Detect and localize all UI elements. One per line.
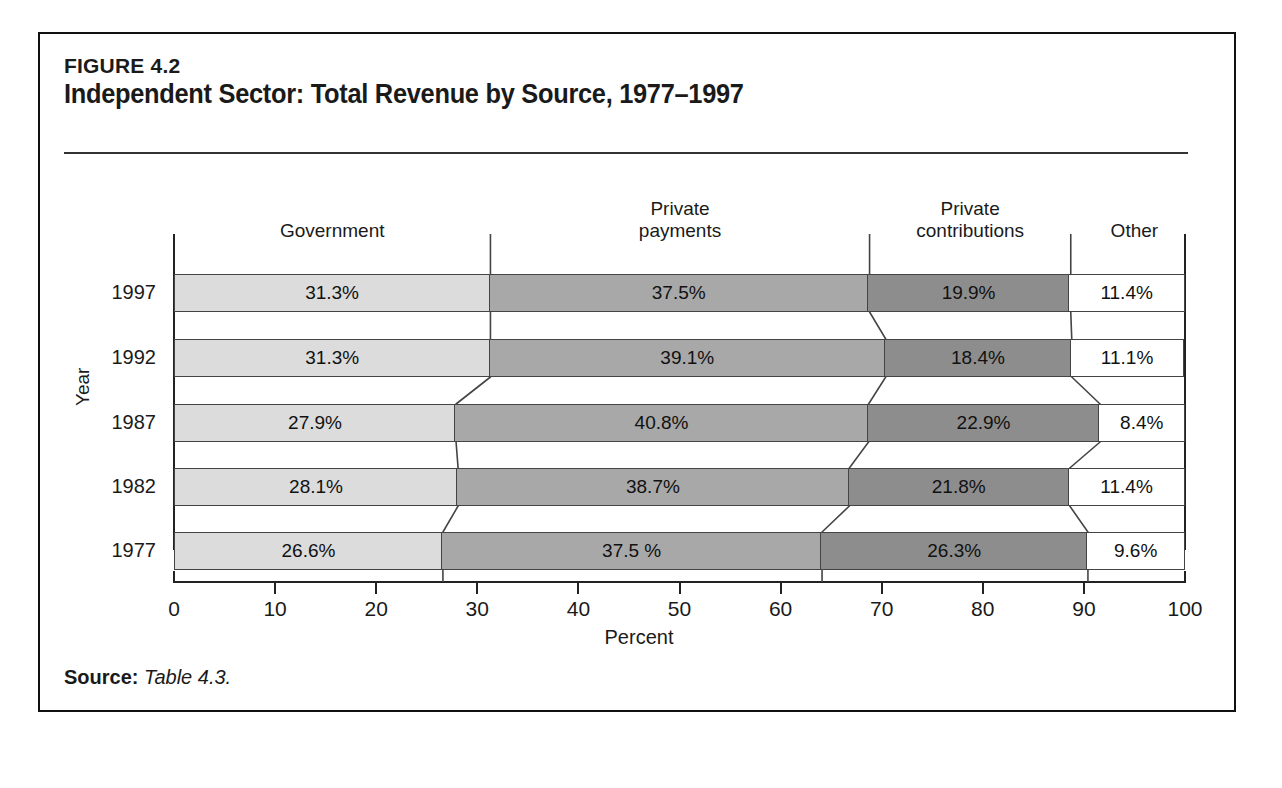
segment-value-label: 8.4% (1120, 412, 1163, 434)
figure-page-frame: FIGURE 4.2 Independent Sector: Total Rev… (38, 32, 1236, 712)
segment-value-label: 21.8% (932, 476, 986, 498)
bar-row: 31.3%37.5%19.9%11.4% (174, 274, 1185, 312)
x-axis-tick-label: 60 (751, 597, 811, 621)
bar-row: 31.3%39.1%18.4%11.1% (174, 339, 1185, 377)
plot-area: 31.3%37.5%19.9%11.4%31.3%39.1%18.4%11.1%… (174, 242, 1185, 542)
column-header-line: Other (1014, 220, 1254, 242)
segment-value-label: 11.4% (1100, 282, 1152, 304)
y-axis-label: 1992 (86, 346, 156, 369)
column-header: Government (212, 220, 452, 242)
column-header: Privatepayments (560, 198, 800, 242)
x-axis-tick-label: 80 (953, 597, 1013, 621)
bar-segment: 8.4% (1098, 404, 1185, 442)
column-header: Other (1014, 220, 1254, 242)
x-axis-tick-label: 0 (144, 597, 204, 621)
source-label: Source: (64, 666, 138, 688)
source-reference: Table 4.3. (144, 666, 231, 688)
x-axis-right-cap (1184, 571, 1186, 583)
segment-value-label: 19.9% (942, 282, 996, 304)
column-header-line: payments (560, 220, 800, 242)
segment-value-label: 11.4% (1100, 476, 1152, 498)
bar-row: 26.6%37.5 %26.3%9.6% (174, 532, 1185, 570)
x-axis-tick (577, 583, 579, 594)
x-axis-tick-label: 90 (1054, 597, 1114, 621)
stacked-bar-chart: GovernmentPrivatepaymentsPrivatecontribu… (40, 34, 1234, 710)
segment-value-label: 18.4% (951, 347, 1005, 369)
x-axis-tick-label: 100 (1155, 597, 1215, 621)
x-axis-tick (881, 583, 883, 594)
bar-segment: 21.8% (848, 468, 1070, 506)
segment-value-label: 37.5% (652, 282, 706, 304)
segment-value-label: 39.1% (660, 347, 714, 369)
y-axis-label: 1997 (86, 281, 156, 304)
x-axis-tick (982, 583, 984, 594)
bar-segment: 39.1% (489, 339, 886, 377)
segment-value-label: 11.1% (1101, 347, 1153, 369)
x-axis-tick (476, 583, 478, 594)
source-note: Source: Table 4.3. (64, 666, 231, 689)
bar-segment: 37.5% (489, 274, 869, 312)
x-axis-tick (780, 583, 782, 594)
bar-row: 27.9%40.8%22.9%8.4% (174, 404, 1185, 442)
segment-value-label: 26.6% (282, 540, 336, 562)
segment-value-label: 31.3% (305, 347, 359, 369)
x-axis-tick (679, 583, 681, 594)
bar-segment: 19.9% (867, 274, 1070, 312)
bar-segment: 9.6% (1086, 532, 1185, 570)
x-axis-tick-label: 30 (447, 597, 507, 621)
column-header-line: Private (850, 198, 1090, 220)
segment-value-label: 26.3% (927, 540, 981, 562)
y-axis-label: 1982 (86, 475, 156, 498)
y-axis-label: 1977 (86, 539, 156, 562)
y-axis-label: 1987 (86, 411, 156, 434)
bar-segment: 18.4% (884, 339, 1072, 377)
column-header-line: Private (560, 198, 800, 220)
bar-segment: 31.3% (174, 339, 490, 377)
segment-value-label: 22.9% (957, 412, 1011, 434)
x-axis-tick-label: 70 (852, 597, 912, 621)
bar-segment: 22.9% (867, 404, 1100, 442)
bar-segment: 11.4% (1068, 468, 1185, 506)
x-axis-tick-label: 10 (245, 597, 305, 621)
column-header-line: Government (212, 220, 452, 242)
x-axis-tick-label: 20 (346, 597, 406, 621)
bar-segment: 26.6% (174, 532, 443, 570)
x-axis-tick (375, 583, 377, 594)
bar-segment: 31.3% (174, 274, 490, 312)
segment-value-label: 38.7% (626, 476, 680, 498)
bar-segment: 40.8% (454, 404, 868, 442)
bar-segment: 37.5 % (441, 532, 822, 570)
bar-row: 28.1%38.7%21.8%11.4% (174, 468, 1185, 506)
x-axis-tick-label: 40 (548, 597, 608, 621)
x-axis-tick (274, 583, 276, 594)
y-axis-title: Year (72, 368, 94, 406)
bar-segment: 38.7% (456, 468, 849, 506)
x-axis-title: Percent (40, 626, 1238, 649)
x-axis-left-cap (173, 571, 175, 583)
bar-segment: 11.1% (1070, 339, 1184, 377)
bar-segment: 11.4% (1068, 274, 1185, 312)
bar-segment: 28.1% (174, 468, 458, 506)
segment-value-label: 37.5 % (602, 540, 661, 562)
x-axis-tick (1083, 583, 1085, 594)
x-axis-tick-label: 50 (650, 597, 710, 621)
segment-value-label: 9.6% (1114, 540, 1157, 562)
bar-segment: 26.3% (820, 532, 1087, 570)
segment-value-label: 28.1% (289, 476, 343, 498)
bar-segment: 27.9% (174, 404, 456, 442)
segment-value-label: 31.3% (305, 282, 359, 304)
segment-value-label: 27.9% (288, 412, 342, 434)
segment-value-label: 40.8% (635, 412, 689, 434)
